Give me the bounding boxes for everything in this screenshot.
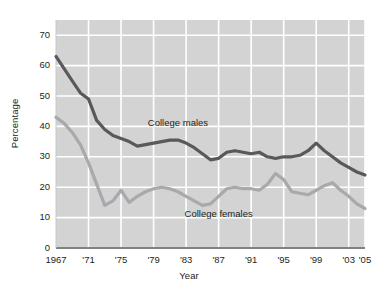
chart-canvas xyxy=(0,0,378,288)
y-tick-70: 70 xyxy=(26,29,50,40)
y-tick-20: 20 xyxy=(26,181,50,192)
y-tick-40: 40 xyxy=(26,120,50,131)
series-label-1: College females xyxy=(185,208,253,219)
y-axis-title: Percentage xyxy=(9,89,20,159)
x-tick-05: '05 xyxy=(345,254,378,265)
y-tick-0: 0 xyxy=(26,242,50,253)
line-chart: Percentage Year 010203040506070 1967'71'… xyxy=(0,0,378,288)
series-label-0: College males xyxy=(148,117,208,128)
y-tick-60: 60 xyxy=(26,59,50,70)
y-tick-10: 10 xyxy=(26,211,50,222)
y-tick-30: 30 xyxy=(26,150,50,161)
y-tick-50: 50 xyxy=(26,90,50,101)
x-axis-title: Year xyxy=(0,270,378,281)
